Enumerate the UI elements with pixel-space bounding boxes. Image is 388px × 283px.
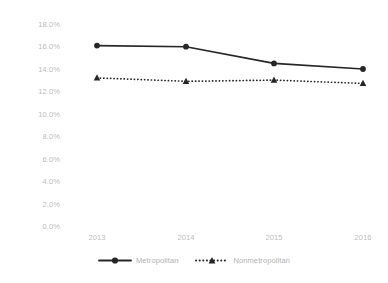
x-axis-tick-label: 2014 [177,234,194,242]
x-axis-tick-label: 2015 [265,234,282,242]
triangle-dotted-line-marker-icon [195,255,229,266]
legend-item-metropolitan[interactable]: Metropolitan [98,255,178,266]
legend-item-nonmetropolitan[interactable]: Nonmetropolitan [195,255,290,266]
line-chart: 18.0% 16.0% 14.0% 12.0% 10.0% 8.0% 6.0% … [0,0,388,283]
circle-solid-line-marker-icon [98,255,132,266]
x-axis-tick-label: 2016 [354,234,371,242]
legend-label: Metropolitan [136,257,178,265]
x-axis-tick-label: 2013 [88,234,105,242]
legend-label: Nonmetropolitan [233,257,290,265]
chart-legend: Metropolitan Nonmetropolitan [0,255,388,266]
x-axis: 2013 2014 2015 2016 [0,0,388,283]
